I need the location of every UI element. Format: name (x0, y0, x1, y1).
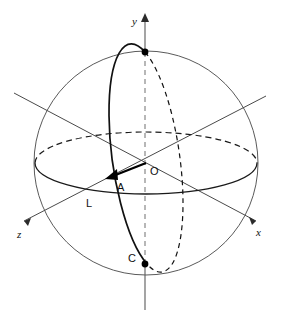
point-label-O: O (150, 165, 159, 177)
sphere-figure: y x z O A L C (0, 0, 282, 324)
y-axis-arrowhead-icon (141, 13, 149, 22)
axis-label-z: z (16, 228, 22, 240)
meridian-front-arc (109, 44, 147, 264)
axis-label-x: x (255, 226, 261, 238)
equator-front-arc (35, 163, 257, 194)
vector-OA-line (113, 163, 146, 176)
point-dot-north-pole (142, 49, 149, 56)
z-axis-line (24, 96, 266, 221)
point-label-A: A (117, 181, 125, 193)
point-label-L: L (86, 197, 92, 209)
x-axis-arrowhead-icon (249, 217, 256, 225)
sphere-diagram-canvas: y x z O A L C (0, 0, 282, 324)
meridian-back-arc (145, 52, 183, 272)
axis-label-y: y (131, 15, 137, 27)
x-axis-line (14, 93, 256, 221)
point-dot-C (142, 261, 149, 268)
point-label-C: C (128, 252, 136, 264)
vector-OA-arrowhead-icon (105, 169, 118, 180)
